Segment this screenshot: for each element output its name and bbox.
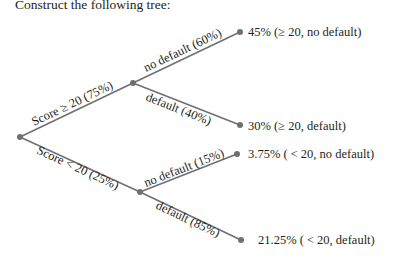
leaf-node-3 xyxy=(234,151,240,157)
leaf-label-3: 3.75% ( < 20, no default) xyxy=(248,147,374,161)
branch-label-high-no-default: no default (60%) xyxy=(141,26,223,75)
node-score-low xyxy=(137,189,143,195)
edge-score-high xyxy=(20,83,133,137)
branch-label-score-low: Score < 20 (25%) xyxy=(35,143,121,193)
branch-label-score-high: Score ≥ 20 (75%) xyxy=(29,78,115,129)
root-node xyxy=(17,134,23,140)
branch-label-high-default: default (40%) xyxy=(144,90,213,128)
leaf-node-2 xyxy=(237,122,243,128)
branch-label-low-default: default (85%) xyxy=(154,198,222,240)
leaf-label-4: 21.25% ( < 20, default) xyxy=(258,233,375,247)
leaf-node-4 xyxy=(238,237,244,243)
branch-label-low-no-default: no default (15%) xyxy=(142,146,226,190)
leaf-label-1: 45% (≥ 20, no default) xyxy=(248,25,361,39)
leaf-label-2: 30% (≥ 20, default) xyxy=(248,119,346,133)
probability-tree: Score ≥ 20 (75%) Score < 20 (25%) no def… xyxy=(0,0,394,263)
node-score-high xyxy=(130,80,136,86)
leaf-node-1 xyxy=(237,29,243,35)
